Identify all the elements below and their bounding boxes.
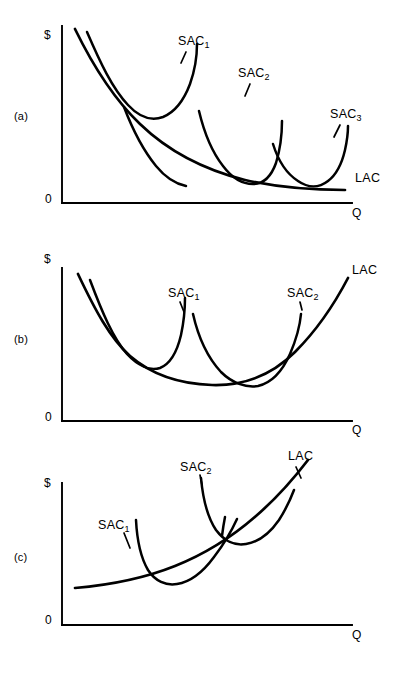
panel-a-letter: (a) <box>14 110 28 122</box>
panel-a-lac-curve <box>75 29 345 190</box>
panel-a-sac3-leader <box>334 125 340 137</box>
panel-b-sac2-leader <box>300 302 302 310</box>
panel-c: (c) $ 0 Q SAC1 SAC2 LAC <box>0 445 407 684</box>
panel-b-sac2-text: SAC <box>287 286 314 300</box>
panel-b-plot <box>0 230 407 445</box>
panel-c-sac2-curve-stub <box>222 517 225 536</box>
panel-b-lac-label: LAC <box>352 263 377 277</box>
panel-c-sac1-text: SAC <box>98 518 125 532</box>
panel-c-sac1-label: SAC1 <box>98 518 130 532</box>
panel-c-x-axis-label: Q <box>352 628 361 642</box>
panel-b-x-axis-label: Q <box>352 423 361 437</box>
panel-a-sac3-subscript: 3 <box>357 113 362 123</box>
panel-a-sac2-subscript: 2 <box>265 72 270 82</box>
panel-b-sac1-label: SAC1 <box>168 286 200 300</box>
panel-b-y-axis-label: $ <box>44 252 51 266</box>
panel-c-plot <box>0 445 407 684</box>
panel-b-sac2-subscript: 2 <box>314 292 319 302</box>
panel-a-sac3-text: SAC <box>330 107 357 121</box>
panel-a-sac1-label: SAC1 <box>178 34 210 48</box>
panel-a-sac1-subscript: 1 <box>205 40 210 50</box>
panel-b-sac1-text: SAC <box>168 286 195 300</box>
panel-c-lac-label: LAC <box>288 449 313 463</box>
panel-a-y-axis-label: $ <box>44 28 51 42</box>
panel-c-origin-label: 0 <box>45 613 52 627</box>
panel-a-sac2-curve <box>199 111 282 184</box>
panel-a-sac3-label: SAC3 <box>330 107 362 121</box>
panel-c-sac1-subscript: 1 <box>125 524 130 534</box>
panel-a-sac2-label: SAC2 <box>238 66 270 80</box>
panel-a-x-axis-label: Q <box>352 206 361 220</box>
panel-c-sac2-subscript: 2 <box>207 466 212 476</box>
panel-a-lac-label: LAC <box>355 171 380 185</box>
panel-a-sac1-leader <box>181 52 186 63</box>
panel-c-sac2-leader <box>200 475 202 485</box>
lac-sac-figure: (a) $ 0 Q SAC1 SAC2 SAC3 LAC (b) <box>0 0 407 684</box>
panel-b-sac2-label: SAC2 <box>287 286 319 300</box>
panel-c-sac2-curve <box>201 478 294 544</box>
panel-a: (a) $ 0 Q SAC1 SAC2 SAC3 LAC <box>0 0 407 230</box>
panel-c-sac2-label: SAC2 <box>180 460 212 474</box>
panel-a-sac1-text: SAC <box>178 34 205 48</box>
panel-a-origin-label: 0 <box>45 192 52 206</box>
panel-c-sac2-text: SAC <box>180 460 207 474</box>
panel-c-letter: (c) <box>14 551 27 563</box>
panel-a-sac2-text: SAC <box>238 66 265 80</box>
panel-b: (b) $ 0 Q SAC1 SAC2 LAC <box>0 230 407 445</box>
panel-b-letter: (b) <box>14 333 28 345</box>
panel-b-sac2-curve <box>193 314 301 386</box>
panel-b-sac1-leader <box>180 302 184 312</box>
panel-a-sac3-curve <box>273 126 348 186</box>
panel-b-origin-label: 0 <box>45 410 52 424</box>
panel-b-sac1-subscript: 1 <box>195 292 200 302</box>
panel-c-sac1-leader <box>124 533 130 548</box>
panel-a-sac2-leader <box>245 84 250 96</box>
panel-c-y-axis-label: $ <box>44 476 51 490</box>
